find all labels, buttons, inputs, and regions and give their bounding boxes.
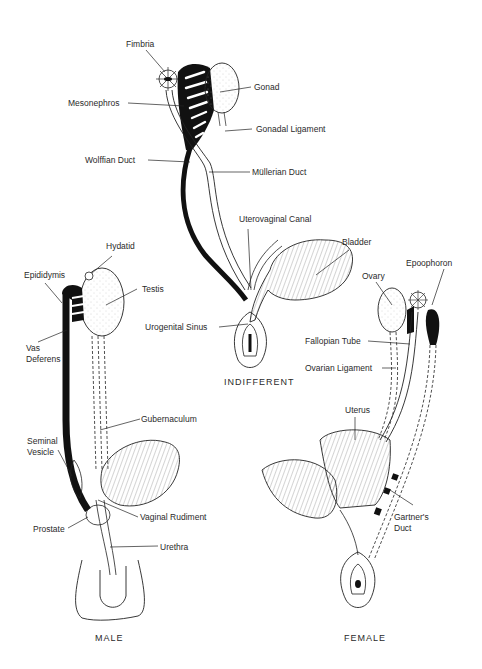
label-uterus: Uterus [345,405,370,415]
label-ovary: Ovary [362,271,385,281]
label-testis: Testis [142,284,164,294]
label-fimbria: Fimbria [126,39,154,49]
label-ovarian-ligament: Ovarian Ligament [305,363,372,373]
label-vaginal-rudiment: Vaginal Rudiment [140,512,206,522]
embryology-diagram: Fimbria Gonad Mesonephros Gonadal Ligame… [0,0,482,669]
label-vesicle: Vesicle [27,447,54,457]
label-gonadal-ligament: Gonadal Ligament [256,124,325,134]
label-fallopian-tube: Fallopian Tube [305,336,361,346]
label-seminal: Seminal [27,436,58,446]
caption-indifferent: INDIFFERENT [224,377,295,387]
label-vas: Vas [26,343,40,353]
label-gubernaculum: Gubernaculum [141,414,197,424]
label-deferens: Deferens [26,354,61,364]
label-epididymis: Epididymis [24,270,65,280]
label-gartners-duct: Duct [394,523,411,533]
label-urogenital-sinus: Urogenital Sinus [145,322,207,332]
label-wolffian-duct: Wolffian Duct [85,155,135,165]
label-prostate: Prostate [33,524,65,534]
label-mullerian-duct: Müllerian Duct [252,167,306,177]
caption-female: FEMALE [344,633,386,643]
label-mesonephros: Mesonephros [68,98,120,108]
caption-male: MALE [95,633,124,643]
label-gartners: Gartner's [394,512,429,522]
label-uterovaginal-canal: Uterovaginal Canal [239,214,311,224]
label-bladder: Bladder [342,237,371,247]
label-epoophoron: Epoophoron [406,258,452,268]
fimbria-structure [156,67,180,91]
label-urethra: Urethra [160,542,188,552]
label-gonad: Gonad [254,82,280,92]
male-stage [62,268,179,620]
label-hydatid: Hydatid [106,241,135,251]
